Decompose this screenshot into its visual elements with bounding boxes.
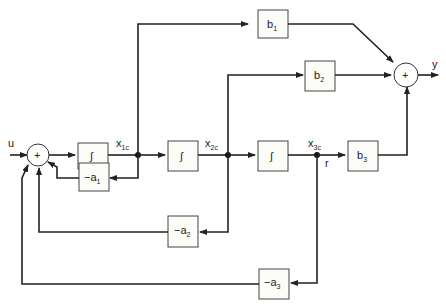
tap-r-label: r [325,157,329,169]
output-label: y [432,58,438,70]
state-x2c-label: x2c [205,137,218,151]
summer-plus-sign: + [34,149,40,161]
gain-minus-a1: −a1 [79,163,109,191]
input-summing-junction: + [27,144,49,166]
gain-minus-a2: −a2 [168,216,198,247]
gain-b2: b2 [305,61,335,91]
integrator-2: ∫ [168,141,198,171]
integrator-3: ∫ [258,141,288,171]
state-x1c-label: x1c [116,137,129,151]
gain-minus-a3: −a3 [259,269,289,299]
gain-b1: b1 [258,10,288,38]
output-summing-junction: + [394,63,418,87]
state-x3c-label: x3c [308,137,321,151]
svg-text:+: + [402,69,408,81]
input-label: u [8,137,14,149]
block-diagram: u + ∫ x1c b1 −a1 ∫ x2c b2 [0,0,446,305]
gain-b3: b3 [348,141,378,171]
